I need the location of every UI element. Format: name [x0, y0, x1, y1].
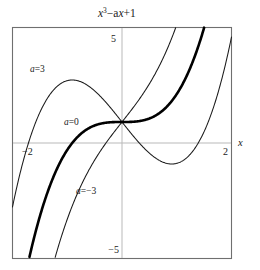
x-tick-neg2: −2	[22, 146, 33, 157]
annotation-a-3-eq: =3	[35, 64, 45, 74]
chart-title: x3−ax+1	[97, 6, 136, 19]
title-tail: +1	[124, 7, 136, 19]
annotation-a-0-eq: =0	[69, 117, 79, 127]
chart-figure: x3−ax+1 5 −5 −2 2 x a=3	[0, 0, 260, 270]
axis-name-x: x	[237, 137, 243, 148]
annotation-a-neg3: a=−3	[76, 186, 96, 196]
x-tick-2: 2	[223, 146, 228, 157]
annotation-a-0: a=0	[64, 117, 79, 127]
y-tick-5: 5	[111, 33, 116, 44]
annotation-a-neg3-eq: =−3	[81, 186, 97, 196]
y-tick-neg5: −5	[108, 244, 119, 255]
plot-canvas: x3−ax+1 5 −5 −2 2 x a=3	[0, 0, 260, 270]
annotation-a-3: a=3	[30, 64, 45, 74]
title-rest: −a	[107, 7, 119, 19]
svg-text:x3−ax+1: x3−ax+1	[97, 6, 136, 19]
curve-a-0	[29, 28, 204, 257]
svg-text:x: x	[237, 137, 243, 148]
